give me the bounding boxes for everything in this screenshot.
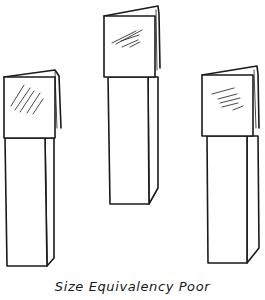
left-display: [4, 70, 61, 266]
right-pillar-front: [207, 136, 247, 263]
center-pillar-front: [108, 77, 149, 204]
center-pillar: [108, 77, 158, 204]
center-card-front: [104, 16, 155, 77]
left-card-front: [4, 77, 55, 138]
left-pillar-front: [5, 138, 47, 266]
right-pillar: [207, 136, 259, 263]
right-display: [202, 66, 259, 263]
right-pillar-side: [247, 136, 259, 263]
left-pillar: [5, 138, 54, 266]
center-card-back-page: [156, 10, 157, 70]
left-card: [4, 70, 61, 138]
right-card: [202, 66, 259, 136]
figure-caption: Size Equivalency Poor: [0, 279, 265, 294]
center-display: [104, 6, 160, 204]
sketch-canvas: [0, 0, 265, 300]
center-card: [104, 6, 160, 77]
right-card-back-page: [254, 70, 256, 128]
